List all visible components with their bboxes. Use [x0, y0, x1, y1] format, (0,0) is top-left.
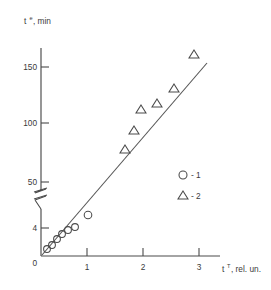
fit-line — [42, 63, 207, 255]
data-point-triangle — [169, 84, 179, 92]
y-axis-title-rest: , min — [33, 16, 51, 26]
y-ticklabel-4: 4 — [32, 223, 37, 233]
y-axis-title: t e , min — [24, 15, 51, 26]
data-point-circle — [84, 211, 92, 219]
y-ticklabel-100: 100 — [23, 118, 37, 128]
data-point-triangle — [152, 99, 162, 107]
x-axis-title-rest: , rel. un. — [231, 264, 261, 274]
data-point-triangle — [120, 145, 130, 153]
data-point-circle — [72, 224, 79, 231]
x-ticklabel-3: 3 — [197, 262, 202, 272]
x-ticklabel-1: 1 — [85, 262, 90, 272]
y-ticklabel-150: 150 — [23, 62, 37, 72]
data-point-circle — [65, 227, 72, 234]
legend-item-1: - 1 — [179, 170, 201, 180]
chart-container: 150 100 50 4 0 t e , min 1 2 3 t T , rel… — [0, 0, 271, 290]
legend: - 1 - 2 — [178, 170, 201, 201]
legend-item-2: - 2 — [178, 191, 201, 201]
x-ticklabel-2: 2 — [141, 262, 146, 272]
y-axis: 150 100 50 4 0 — [23, 48, 49, 268]
x-axis-title-base: t — [222, 264, 225, 274]
series-2-triangles — [120, 50, 199, 153]
y-ticklabel-0: 0 — [32, 258, 37, 268]
x-axis-title: t T , rel. un. — [222, 263, 261, 274]
y-axis-title-base: t — [24, 16, 27, 26]
series-1-circles — [44, 211, 92, 252]
data-point-triangle — [136, 105, 146, 113]
x-axis: 1 2 3 — [41, 248, 220, 272]
legend-label-1: - 1 — [191, 170, 201, 180]
legend-label-2: - 2 — [191, 191, 201, 201]
y-ticklabel-50: 50 — [28, 177, 38, 187]
y-axis-break-icon — [35, 189, 46, 209]
data-point-triangle — [129, 126, 139, 134]
data-point-triangle — [189, 50, 199, 58]
legend-triangle-icon — [178, 191, 188, 199]
scatter-plot: 150 100 50 4 0 t e , min 1 2 3 t T , rel… — [0, 0, 271, 290]
legend-circle-icon — [179, 171, 187, 179]
